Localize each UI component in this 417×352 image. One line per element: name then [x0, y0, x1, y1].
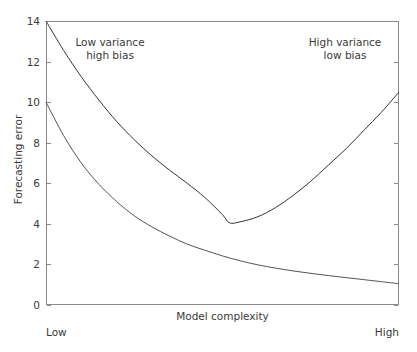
y-axis-label: Forecasting error [13, 100, 24, 220]
chart-figure: 02468101214 Low variance high bias High … [0, 0, 417, 352]
y-tick-mark [47, 143, 51, 144]
y-tick-label: 4 [10, 219, 40, 230]
y-tick-mark-right [394, 264, 398, 265]
y-tick-label: 2 [10, 259, 40, 270]
y-tick-label: 14 [10, 16, 40, 27]
y-tick-mark-right [394, 102, 398, 103]
y-tick-mark-right [394, 305, 398, 306]
annotation-low-variance: Low variance high bias [55, 36, 165, 62]
y-tick-mark-right [394, 224, 398, 225]
y-tick-mark-right [394, 183, 398, 184]
x-axis-low-label: Low [46, 326, 67, 338]
y-tick-label: 0 [10, 300, 40, 311]
y-tick-mark [47, 62, 51, 63]
y-tick-label: 12 [10, 57, 40, 68]
y-tick-mark-right [394, 143, 398, 144]
y-tick-mark [47, 264, 51, 265]
annotation-high-variance-line1: High variance [289, 36, 401, 49]
annotation-low-variance-line1: Low variance [55, 36, 165, 49]
annotation-low-variance-line2: high bias [55, 49, 165, 62]
y-tick-mark [47, 102, 51, 103]
annotation-high-variance-line2: low bias [289, 49, 401, 62]
plot-area [46, 21, 399, 305]
y-tick-mark [47, 224, 51, 225]
annotation-high-variance: High variance low bias [289, 36, 401, 62]
y-tick-mark-right [394, 21, 398, 22]
y-tick-mark [47, 183, 51, 184]
y-tick-mark [47, 21, 51, 22]
x-axis-label: Model complexity [46, 310, 399, 322]
x-axis-high-label: High [349, 326, 399, 338]
y-tick-mark [47, 305, 51, 306]
